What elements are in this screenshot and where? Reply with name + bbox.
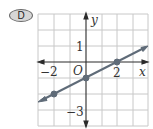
- line-left-arrow-icon: [38, 97, 47, 103]
- y-tick-neg3: −3: [66, 105, 84, 119]
- x-tick-2: 2: [113, 66, 121, 80]
- x-tick-neg2: −2: [40, 65, 58, 79]
- line-right-arrow-icon: [141, 46, 148, 52]
- y-axis-label: y: [90, 13, 98, 27]
- point-neg2-neg2: [51, 91, 57, 97]
- x-axis-left-arrow-icon: [38, 60, 44, 64]
- x-axis-right-arrow-icon: [142, 60, 148, 64]
- y-tick-1: 1: [76, 40, 84, 54]
- point-0-neg1: [83, 75, 89, 81]
- coordinate-plane: y x O 1 −3 −2 2: [0, 0, 153, 129]
- origin-label: O: [73, 64, 83, 78]
- x-axis-label: x: [139, 65, 146, 79]
- labels: y x O 1 −3 −2 2: [40, 13, 146, 119]
- point-2-0: [114, 59, 120, 65]
